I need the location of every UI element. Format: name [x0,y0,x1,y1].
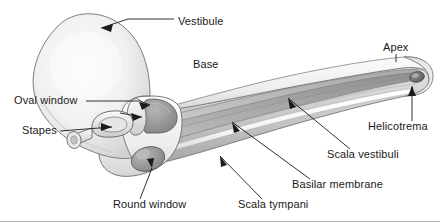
label-stapes: Stapes [22,125,57,136]
label-scala-vestibuli: Scala vestibuli [327,149,399,160]
label-round-window: Round window [113,199,186,210]
label-base: Base [193,59,218,70]
label-helicotrema: Helicotrema [368,121,428,132]
label-basilar-membrane: Basilar membrane [292,179,383,190]
label-scala-tympani: Scala tympani [238,199,308,210]
label-vestibule: Vestibule [178,16,224,27]
label-apex: Apex [383,42,408,53]
label-oval-window: Oval window [14,95,77,106]
vestibule-highlight [50,32,122,100]
leader-scala-tympani [220,156,262,199]
cochlea-diagram: Vestibule Base Apex Oval window Stapes H… [0,0,440,222]
